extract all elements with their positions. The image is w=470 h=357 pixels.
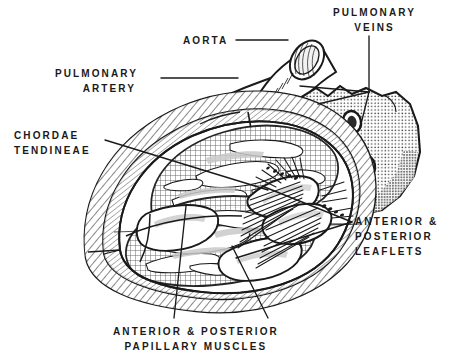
label-leaflets-line2: POSTERIOR xyxy=(355,229,438,244)
label-leaflets-line3: LEAFLETS xyxy=(355,244,438,259)
label-aorta-text: AORTA xyxy=(183,35,228,46)
heart-illustration xyxy=(0,0,470,357)
label-pulmonary-veins-line2: VEINS xyxy=(333,20,416,35)
label-pulmonary-veins-line1: PULMONARY xyxy=(333,7,416,18)
label-chordae-line1: CHORDAE xyxy=(14,130,79,141)
label-chordae-line2: TENDINEAE xyxy=(14,143,91,158)
label-pulmonary-artery-line2: ARTERY xyxy=(55,81,138,96)
label-pulmonary-veins: PULMONARY VEINS xyxy=(333,5,416,35)
label-leaflets: ANTERIOR & POSTERIOR LEAFLETS xyxy=(355,214,438,259)
label-leaflets-line1: ANTERIOR & xyxy=(355,216,438,227)
label-papillary-line1: ANTERIOR & POSTERIOR xyxy=(113,326,279,337)
label-chordae-tendineae: CHORDAE TENDINEAE xyxy=(14,128,91,158)
label-papillary-line2: PAPILLARY MUSCLES xyxy=(113,339,279,354)
label-pulmonary-artery-line1: PULMONARY xyxy=(55,68,138,79)
heart-anatomy-figure: AORTA PULMONARY VEINS PULMONARY ARTERY C… xyxy=(0,0,470,357)
label-pulmonary-artery: PULMONARY ARTERY xyxy=(55,66,138,96)
label-papillary-muscles: ANTERIOR & POSTERIOR PAPILLARY MUSCLES xyxy=(113,324,279,354)
label-aorta: AORTA xyxy=(183,33,228,48)
